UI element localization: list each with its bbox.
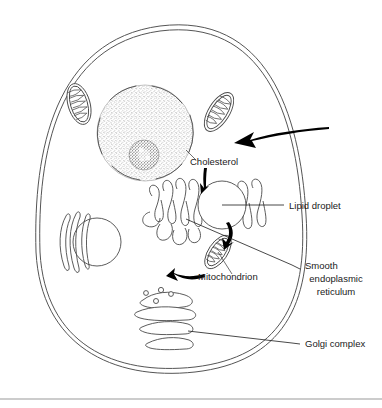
- label-cholesterol: Cholesterol: [190, 156, 238, 167]
- golgi-complex: [135, 287, 196, 349]
- label-smooth-er-line3: reticulum: [317, 286, 356, 297]
- label-mitochondrion: Mitochondrion: [198, 271, 258, 282]
- mitochondrion-upper-right: [198, 88, 239, 136]
- label-golgi-complex: Golgi complex: [305, 338, 365, 349]
- label-smooth-er-line2: endoplasmic: [309, 273, 363, 284]
- vacuole: [73, 218, 121, 266]
- mitochondrion-upper-left: [63, 81, 96, 127]
- incoming-arrow: [234, 127, 329, 148]
- label-smooth-er-line1: Smooth: [305, 260, 338, 271]
- nucleus: [97, 85, 193, 181]
- cell-diagram-figure: Cholesterol Lipid droplet Mitochondrion …: [0, 0, 382, 408]
- cell-diagram-canvas: Cholesterol Lipid droplet Mitochondrion …: [0, 0, 382, 408]
- label-lipid-droplet: Lipid droplet: [289, 200, 341, 211]
- leader-lines: [186, 150, 300, 344]
